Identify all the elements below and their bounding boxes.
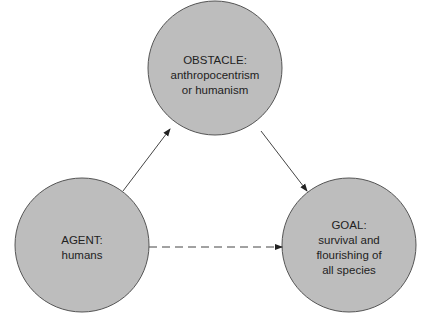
obstacle-line-1: anthropocentrism [148,68,282,83]
edge-obstacle-to-goal [261,131,307,191]
goal-title: GOAL: [282,218,416,233]
diagram-canvas [0,0,429,329]
agent-line-1: humans [15,248,149,263]
goal-line-1: survival and [282,233,416,248]
goal-line-2: flourishing of [282,248,416,263]
obstacle-label: OBSTACLE: anthropocentrism or humanism [148,53,282,98]
agent-label: AGENT: humans [15,233,149,263]
edge-agent-to-obstacle [123,129,170,191]
obstacle-line-2: or humanism [148,83,282,98]
goal-line-3: all species [282,263,416,278]
obstacle-title: OBSTACLE: [148,53,282,68]
goal-label: GOAL: survival and flourishing of all sp… [282,218,416,278]
agent-title: AGENT: [15,233,149,248]
